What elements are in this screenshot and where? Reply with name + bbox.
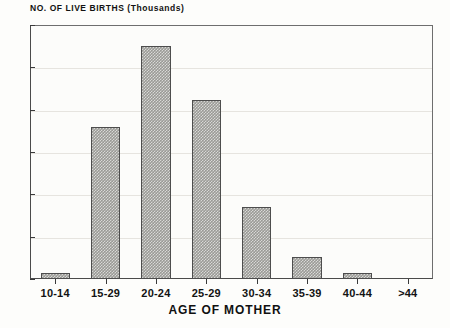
bar — [343, 273, 372, 279]
x-tick-mark — [206, 279, 207, 284]
x-tick-label: 15-29 — [91, 287, 120, 299]
x-tick-mark — [55, 279, 56, 284]
x-tick-mark — [307, 279, 308, 284]
y-tick-mark — [30, 194, 35, 195]
x-tick-label: 30-34 — [242, 287, 271, 299]
bar — [41, 273, 70, 279]
x-tick-mark — [357, 279, 358, 284]
bar-chart-figure: NO. OF LIVE BIRTHS (Thousands) 051015202… — [0, 0, 450, 328]
y-axis-title: NO. OF LIVE BIRTHS (Thousands) — [30, 3, 184, 13]
bar — [242, 207, 271, 279]
y-tick-mark — [30, 67, 35, 68]
gridline — [31, 111, 432, 112]
x-tick-mark — [257, 279, 258, 284]
x-tick-label: 25-29 — [192, 287, 221, 299]
y-tick-mark — [30, 237, 35, 238]
x-tick-label: 20-24 — [141, 287, 170, 299]
bar — [141, 46, 170, 279]
y-tick-mark — [30, 279, 35, 280]
x-tick-mark — [106, 279, 107, 284]
y-tick-mark — [30, 110, 35, 111]
x-axis-title: AGE OF MOTHER — [0, 303, 450, 317]
bar — [292, 257, 321, 279]
bar — [91, 127, 120, 279]
gridline — [31, 68, 432, 69]
y-tick-mark — [30, 25, 35, 26]
x-tick-mark — [408, 279, 409, 284]
x-tick-label: >44 — [398, 287, 417, 299]
bar — [192, 100, 221, 279]
x-tick-label: 10-14 — [41, 287, 70, 299]
x-tick-mark — [156, 279, 157, 284]
x-tick-label: 35-39 — [292, 287, 321, 299]
x-tick-label: 40-44 — [343, 287, 372, 299]
y-tick-mark — [30, 152, 35, 153]
